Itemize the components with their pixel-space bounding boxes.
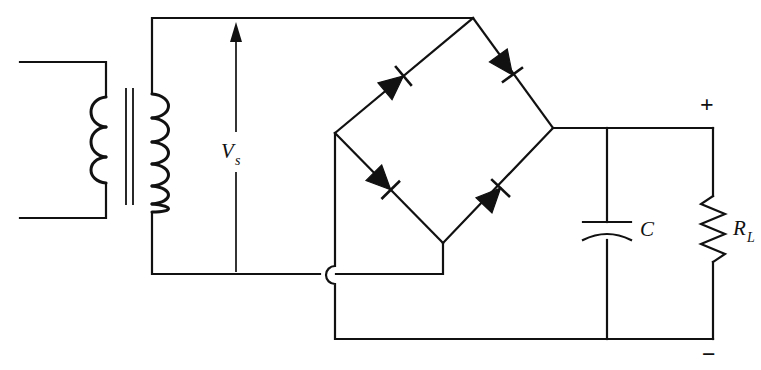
filter-capacitor: C [583, 128, 655, 339]
load-resistor-label: R [732, 216, 746, 240]
arrow-head-up-icon [230, 22, 242, 42]
diode-upper-right [488, 48, 523, 83]
load-resistor: R L [701, 128, 755, 339]
primary-top-lead [20, 62, 106, 97]
secondary-top-lead [152, 18, 473, 94]
source-voltage-arrow: V s [221, 22, 242, 272]
source-voltage-subscript: s [235, 153, 241, 168]
output-polarity-plus: + [700, 91, 714, 117]
circuit-schematic: V s [0, 0, 761, 370]
transformer-secondary [152, 18, 473, 274]
capacitor-label: C [640, 217, 655, 241]
source-voltage-label: V [221, 139, 236, 163]
primary-bottom-lead [20, 183, 106, 218]
bridge-ac-input-wires [336, 243, 443, 274]
transformer-primary [20, 62, 106, 218]
primary-winding-coils [91, 97, 106, 183]
diode-upper-left [377, 66, 412, 101]
diode-bridge [335, 18, 553, 243]
load-resistor-subscript: L [746, 230, 755, 245]
circuit-diagram-container: V s [0, 0, 761, 370]
transformer-core [126, 88, 133, 205]
diode-lower-right [475, 179, 510, 214]
bridge-bottom-to-secondary [336, 243, 443, 274]
output-polarity-minus: − [702, 341, 716, 367]
secondary-winding-coils [152, 94, 169, 212]
resistor-zigzag-body [701, 196, 725, 262]
